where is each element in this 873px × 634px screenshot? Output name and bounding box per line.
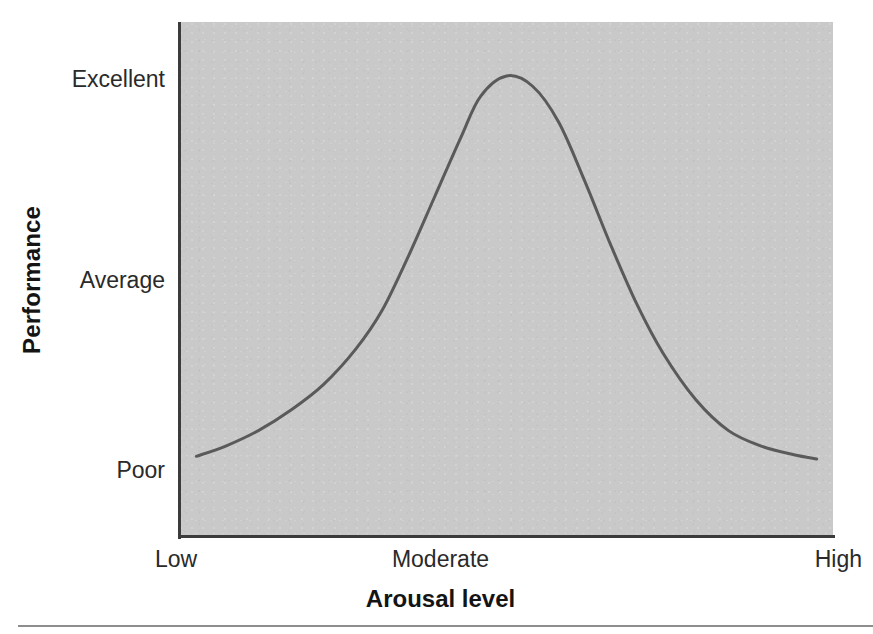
y-axis-line bbox=[178, 22, 181, 539]
y-tick-label-average: Average bbox=[0, 269, 165, 292]
page-divider-rule bbox=[18, 625, 873, 627]
x-tick-label-high: High bbox=[0, 548, 873, 571]
plot-area bbox=[180, 22, 833, 536]
x-axis-title: Arousal level bbox=[0, 585, 873, 613]
performance-curve-svg bbox=[180, 22, 833, 536]
y-tick-label-excellent: Excellent bbox=[0, 68, 165, 91]
performance-curve-line bbox=[196, 76, 816, 459]
y-tick-label-poor: Poor bbox=[0, 459, 165, 482]
x-axis-line bbox=[178, 535, 835, 538]
y-axis-title: Performance bbox=[0, 0, 64, 634]
yerkes-dodson-figure: Excellent Average Poor Performance Low M… bbox=[0, 0, 873, 634]
